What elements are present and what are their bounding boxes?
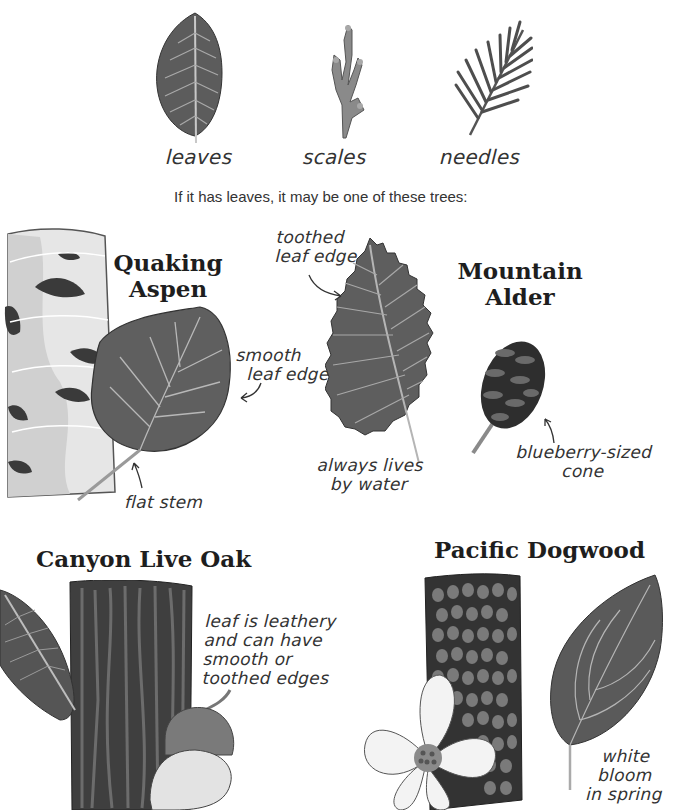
- leaf-type-leaves: [150, 8, 230, 143]
- alder-cone-note: blueberry-sized cone: [515, 443, 653, 481]
- alder-title: Mountain Alder: [455, 258, 585, 310]
- leaf-type-scales: [318, 10, 368, 140]
- label-needles: needles: [440, 148, 521, 167]
- oak-bark-leaf-acorn-icon: [0, 580, 240, 810]
- oak-note: leaf is leathery and can have smooth or …: [202, 612, 337, 688]
- aspen-stem-note: flat stem: [125, 493, 204, 512]
- aspen-edge-note: smooth leaf edge: [235, 346, 331, 384]
- aspen-title: Quaking Aspen: [108, 250, 228, 302]
- needle-branch-icon: [448, 20, 533, 140]
- dogwood-note: white bloom in spring: [575, 747, 675, 804]
- oak-illustration: [0, 580, 240, 810]
- aspen-title-line2: Aspen: [108, 276, 228, 302]
- alder-edge-note: toothed leaf edge: [275, 228, 359, 266]
- arrow-icon: [236, 380, 266, 405]
- arrow-icon: [306, 272, 346, 302]
- label-leaves: leaves: [166, 148, 233, 167]
- oak-title: Canyon Live Oak: [36, 546, 251, 572]
- arrow-icon: [540, 415, 560, 445]
- arrow-icon: [128, 460, 148, 490]
- dogwood-title: Pacific Dogwood: [434, 537, 645, 563]
- label-scales: scales: [303, 148, 368, 167]
- broad-leaf-icon: [150, 8, 230, 143]
- aspen-title-line1: Quaking: [108, 250, 228, 276]
- alder-water-note: always lives by water: [316, 456, 424, 494]
- leaf-type-needles: [448, 20, 533, 140]
- intro-caption: If it has leaves, it may be one of these…: [174, 188, 468, 205]
- scale-foliage-icon: [318, 10, 368, 140]
